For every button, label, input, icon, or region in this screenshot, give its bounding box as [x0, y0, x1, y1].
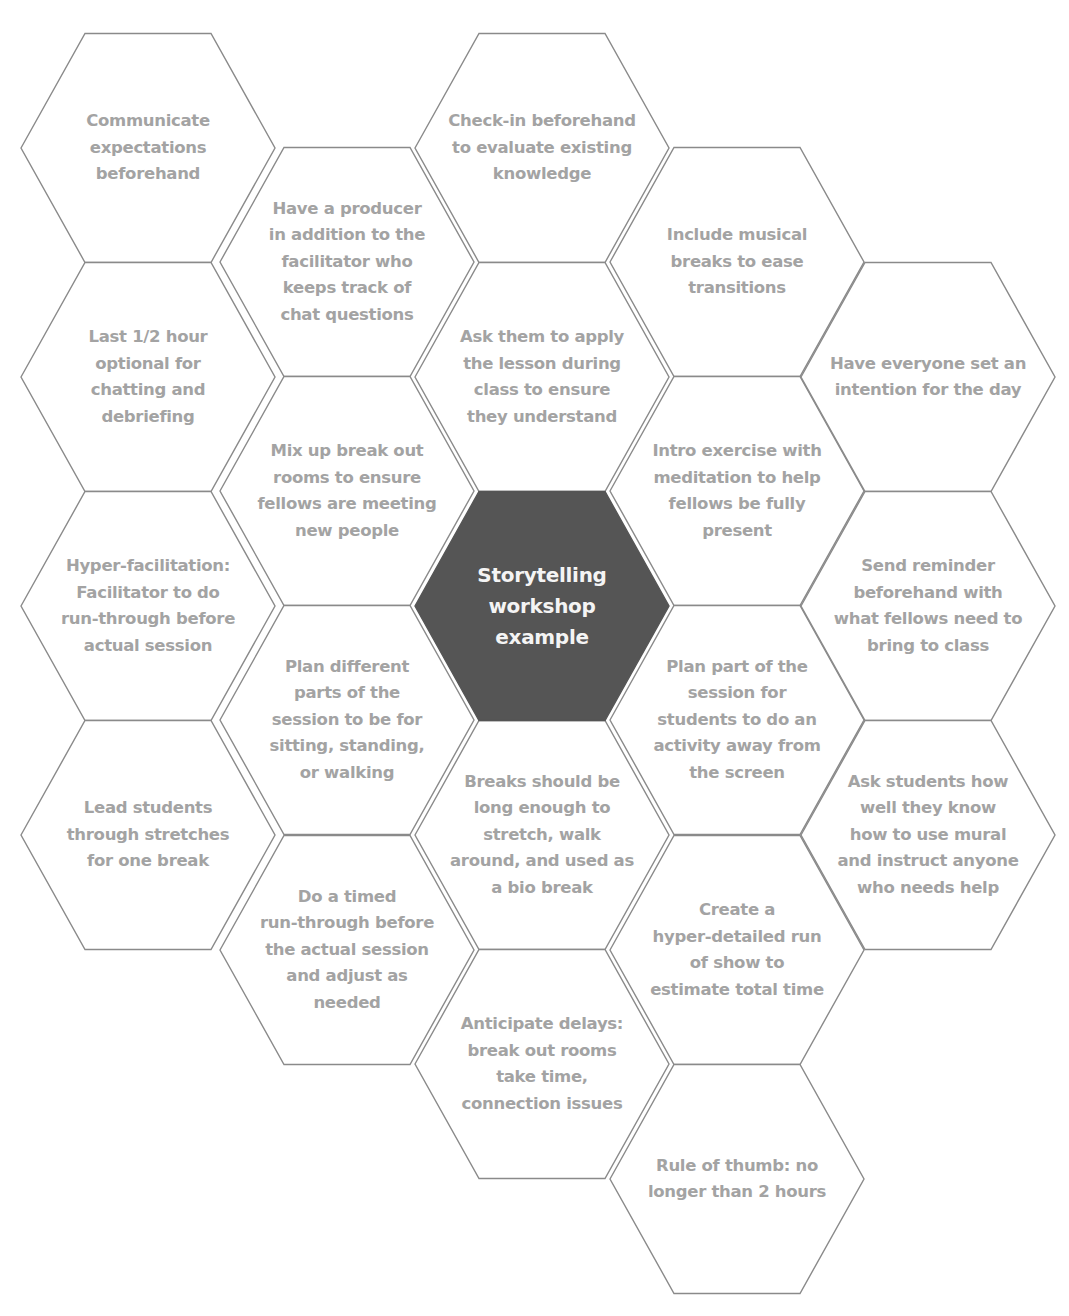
- center-hexagon-label: Storytelling workshop example: [432, 506, 652, 706]
- hexagon-label-musical-breaks: Include musical breaks to ease transitio…: [627, 162, 847, 362]
- hexagon-label-hyper-detailed-run-of-show: Create a hyper-detailed run of show to e…: [627, 850, 847, 1050]
- hexagon-label-have-producer: Have a producer in addition to the facil…: [237, 162, 457, 362]
- hexagon-label-lead-stretches: Lead students through stretches for one …: [38, 735, 258, 935]
- hexagon-label-plan-different-parts: Plan different parts of the session to b…: [237, 620, 457, 820]
- hexagon-label-anticipate-delays: Anticipate delays: break out rooms take …: [432, 964, 652, 1164]
- hexagon-label-set-intention: Have everyone set an intention for the d…: [818, 277, 1038, 477]
- hexagon-label-send-reminder: Send reminder beforehand with what fello…: [818, 506, 1038, 706]
- hexagon-label-hyper-facilitation: Hyper-facilitation: Facilitator to do ru…: [38, 506, 258, 706]
- hexagon-label-breaks-long-enough: Breaks should be long enough to stretch,…: [432, 735, 652, 935]
- hexagon-label-mix-break-out: Mix up break out rooms to ensure fellows…: [237, 391, 457, 591]
- hexagon-label-ask-mural-knowledge: Ask students how well they know how to u…: [818, 735, 1038, 935]
- hexagon-label-timed-run-through: Do a timed run-through before the actual…: [237, 850, 457, 1050]
- hexagon-label-apply-lesson: Ask them to apply the lesson during clas…: [432, 277, 652, 477]
- hexagon-label-check-in-beforehand: Check-in beforehand to evaluate existing…: [432, 48, 652, 248]
- hexagon-label-last-half-hour: Last 1/2 hour optional for chatting and …: [38, 277, 258, 477]
- hexagon-label-communicate-expectations: Communicate expectations beforehand: [38, 48, 258, 248]
- hexagon-label-rule-of-thumb: Rule of thumb: no longer than 2 hours: [627, 1079, 847, 1279]
- hexagon-label-intro-meditation: Intro exercise with meditation to help f…: [627, 391, 847, 591]
- hexagon-label-activity-away-from-screen: Plan part of the session for students to…: [627, 620, 847, 820]
